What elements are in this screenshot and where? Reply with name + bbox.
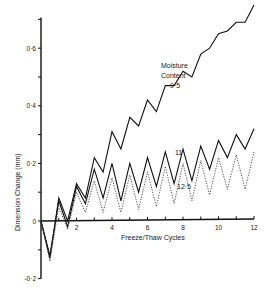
- x-axis-label: Freeze/Thaw Cycles: [121, 234, 185, 242]
- chart-canvas: -0·200·20·40·624681012Freeze/Thaw Cycles…: [0, 0, 275, 293]
- annotation-moisture: Moisture: [161, 62, 188, 69]
- y-tick-label: 0: [32, 218, 36, 225]
- annotations: Moisture Content 9·5 11 12·5: [161, 62, 191, 190]
- y-tick-label: -0·2: [24, 275, 36, 282]
- label-series-11: 11: [175, 149, 182, 156]
- x-tick-label: 10: [215, 224, 223, 231]
- series-line-12-5: [41, 152, 254, 261]
- axes: -0·200·20·40·624681012Freeze/Thaw Cycles…: [14, 17, 258, 282]
- x-tick-label: 2: [75, 224, 79, 231]
- x-tick-label: 6: [146, 224, 150, 231]
- label-series-12-5: 12·5: [177, 183, 191, 190]
- x-tick-label: 12: [250, 224, 258, 231]
- y-tick-label: 0·2: [27, 160, 37, 167]
- y-tick-label: 0·4: [27, 102, 37, 109]
- label-series-9-5: 9·5: [170, 82, 180, 89]
- y-tick-label: 0·6: [27, 45, 37, 52]
- y-axis-label: Dimension Change (mm): [14, 153, 22, 231]
- dimension-change-chart: -0·200·20·40·624681012Freeze/Thaw Cycles…: [0, 0, 275, 293]
- series-lines: [41, 5, 254, 261]
- x-tick-label: 8: [181, 224, 185, 231]
- annotation-content: Content: [161, 72, 186, 79]
- x-tick-label: 4: [110, 224, 114, 231]
